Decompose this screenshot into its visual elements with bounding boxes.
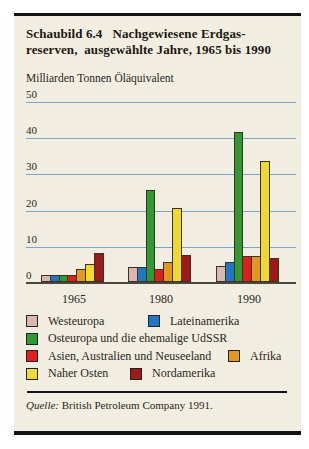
- y-tick-10: 10: [26, 234, 37, 245]
- x-tick-1965: 1965: [43, 292, 105, 307]
- bottom-rule: [14, 431, 301, 435]
- legend-item-naher-osten: Naher Osten: [26, 366, 130, 381]
- y-axis-unit-label: Milliarden Tonnen Öläquivalent: [26, 72, 294, 84]
- bar-1965-nordamerika: [94, 253, 104, 282]
- chart-title-line1: Schaubild 6.4 Nachgewiesene Erdgas-: [26, 26, 246, 41]
- gridline-50: [26, 102, 296, 103]
- chart-title-line2: reserven, ausgewählte Jahre, 1965 bis 19…: [26, 42, 271, 57]
- x-tick-1980: 1980: [130, 292, 192, 307]
- plot-area: 01020304050196519801990: [14, 103, 301, 284]
- legend-row-2: Osteuropa und die ehemalige UdSSR: [26, 333, 294, 346]
- legend-item-nordamerika: Nordamerika: [130, 366, 215, 381]
- legend-swatch-icon: [26, 368, 38, 380]
- legend-swatch-icon: [26, 315, 38, 327]
- bar-group-1990: [216, 132, 278, 282]
- legend-item-asien-australien-und-neuseeland: Asien, Australien und Neuseeland: [26, 349, 228, 364]
- bar-1990-nordamerika: [269, 258, 279, 282]
- legend-swatch-icon: [26, 350, 38, 362]
- legend-row-1: WesteuropaLateinamerika: [26, 315, 294, 328]
- chart-title: Schaubild 6.4 Nachgewiesene Erdgas-reser…: [26, 26, 294, 58]
- legend-item-osteuropa-und-die-ehemalige-udssr: Osteuropa und die ehemalige UdSSR: [26, 331, 227, 346]
- x-axis-line: [26, 282, 296, 284]
- legend-row-3: Asien, Australien und NeuseelandAfrika: [26, 350, 294, 363]
- bar-1980-nordamerika: [181, 255, 191, 282]
- legend-item-westeuropa: Westeuropa: [26, 314, 148, 329]
- legend-label: Westeuropa: [48, 314, 104, 329]
- bar-group-1980: [128, 190, 190, 283]
- bar-group-1965: [41, 253, 103, 282]
- legend-swatch-icon: [26, 333, 38, 345]
- x-tick-1990: 1990: [218, 292, 280, 307]
- bar-1980-osteuropa-und-die-ehemalige-udssr: [146, 190, 156, 283]
- legend-label: Asien, Australien und Neuseeland: [48, 349, 211, 364]
- legend-swatch-icon: [148, 315, 160, 327]
- legend-swatch-icon: [130, 368, 142, 380]
- chart-panel: Schaubild 6.4 Nachgewiesene Erdgas-reser…: [14, 13, 301, 435]
- y-tick-20: 20: [26, 198, 37, 209]
- legend-label: Nordamerika: [152, 366, 215, 381]
- legend-item-afrika: Afrika: [228, 349, 281, 364]
- source-label: Quelle:: [26, 399, 59, 411]
- source-text: British Petroleum Company 1991.: [59, 399, 213, 411]
- legend-label: Osteuropa und die ehemalige UdSSR: [48, 331, 227, 346]
- y-tick-30: 30: [26, 161, 37, 172]
- legend-label: Naher Osten: [48, 366, 108, 381]
- legend-swatch-icon: [228, 350, 240, 362]
- legend-item-lateinamerika: Lateinamerika: [148, 314, 239, 329]
- legend-label: Afrika: [250, 349, 281, 364]
- legend-row-4: Naher OstenNordamerika: [26, 368, 294, 381]
- source-line: Quelle: British Petroleum Company 1991.: [26, 399, 294, 411]
- y-tick-0: 0: [26, 270, 32, 281]
- divider-rule: [27, 391, 287, 393]
- legend-label: Lateinamerika: [170, 314, 239, 329]
- legend: WesteuropaLateinamerikaOsteuropa und die…: [26, 315, 294, 385]
- y-tick-50: 50: [26, 89, 37, 100]
- y-tick-40: 40: [26, 125, 37, 136]
- top-rule: [14, 13, 301, 16]
